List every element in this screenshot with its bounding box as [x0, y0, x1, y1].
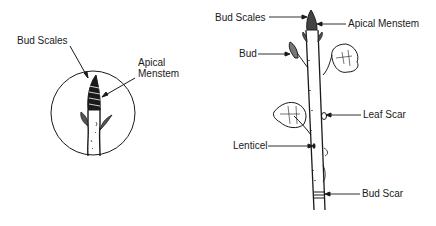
left-label-apical-line2: Menstem [138, 68, 179, 79]
right-label-leaf-scar: Leaf Scar [363, 109, 406, 120]
left-side-bud-left [81, 112, 88, 126]
twig-bud-scar [314, 192, 325, 198]
left-side-bud-right [100, 115, 112, 130]
twig-terminal-bud [307, 10, 317, 30]
twig-lateral-bud [289, 42, 298, 58]
left-label-apical-line1: Apical [138, 57, 165, 68]
right-label-lenticel: Lenticel [233, 140, 267, 151]
twig-upper-leaf [332, 44, 358, 72]
right-label-bud: Bud [239, 48, 257, 59]
twig-stem-right-edge [318, 30, 325, 210]
twig-leaf-scar [322, 113, 327, 120]
right-label-bud-scales: Bud Scales [215, 12, 266, 23]
right-label-apical-meristem: Apical Menstem [348, 18, 419, 29]
left-stem [88, 108, 100, 156]
left-magnified-bud-figure [51, 46, 135, 156]
left-label-bud-scales: Bud Scales [17, 35, 68, 46]
right-label-bud-scar: Bud Scar [362, 188, 403, 199]
right-twig-figure [258, 10, 361, 210]
twig-stem-left-edge [306, 30, 314, 210]
